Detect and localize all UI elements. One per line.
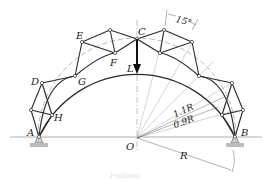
node-label-f: F — [109, 57, 118, 68]
figure-caption: Problem — [110, 172, 140, 180]
node-label-c: C — [138, 26, 146, 37]
node-label-a: A — [26, 127, 34, 138]
radius-label: R — [179, 150, 188, 161]
load-arrow — [133, 39, 141, 74]
node-label-e: E — [75, 30, 84, 41]
node-label-b: B — [240, 127, 248, 138]
node-label-d: D — [30, 76, 39, 87]
arch-truss-diagram: A B C D E F G H O L 15° 1.1R 0.9R R Prob… — [0, 0, 274, 183]
node-label-o: O — [126, 141, 134, 152]
load-label: L — [126, 63, 134, 74]
angle-label: 15° — [175, 14, 193, 28]
node-label-h: H — [53, 112, 63, 123]
node-label-g: G — [78, 76, 86, 87]
